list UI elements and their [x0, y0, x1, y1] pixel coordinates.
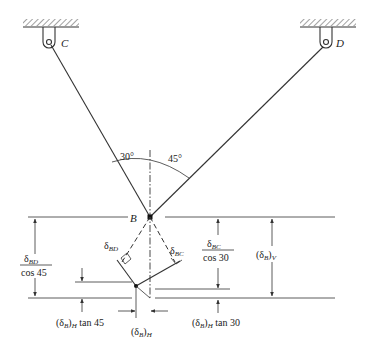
angle-30-label: 30°: [120, 151, 134, 162]
dbh-tan30-label: (δB)H tan 30: [192, 317, 240, 330]
angle-45-label: 45°: [168, 153, 182, 164]
svg-text:δBC: δBC: [207, 238, 221, 251]
label-b: B: [130, 212, 137, 224]
frac-bc-cos30: δBC cos 30: [202, 238, 234, 263]
ceiling-hatch-d: [300, 19, 356, 26]
ceiling-hatch-c: [23, 19, 79, 26]
dbh-tan45-label: (δB)H tan 45: [56, 317, 104, 330]
pin-d: [324, 40, 329, 45]
svg-text:cos 45: cos 45: [21, 267, 47, 278]
member-bd: [150, 47, 323, 217]
label-c: C: [61, 37, 69, 49]
pin-c: [47, 40, 52, 45]
svg-text:δBD: δBD: [24, 253, 38, 266]
delta-bd-label: δBD: [104, 240, 118, 253]
dbh-label: (δB)H: [131, 326, 153, 339]
support-c: C: [23, 19, 79, 49]
dbv-label: (δB)V: [256, 249, 277, 262]
support-d: D: [300, 19, 356, 49]
label-d: D: [335, 37, 344, 49]
tail-line: [136, 286, 150, 298]
svg-text:cos 30: cos 30: [203, 252, 229, 263]
perp-bc: [136, 261, 180, 286]
truss-displacement-diagram: C D 30° 45° B δBD cos 45 (δB)H: [0, 0, 371, 356]
member-bc: [51, 45, 150, 217]
frac-bd-cos45: δBD cos 45: [20, 253, 52, 278]
